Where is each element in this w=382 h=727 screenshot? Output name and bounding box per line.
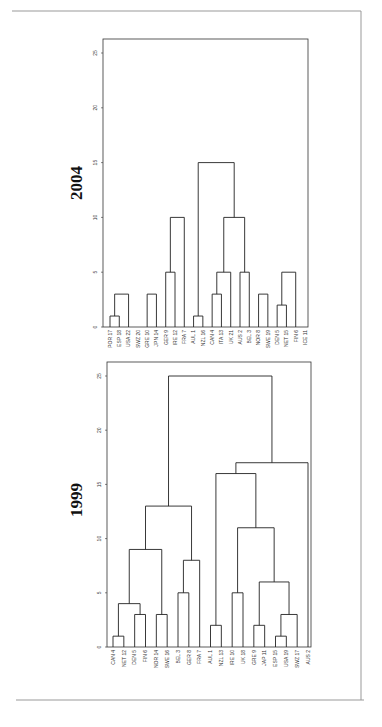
dendrogram-link — [259, 582, 289, 625]
leaf-label: BEL 3 — [246, 330, 252, 344]
dendrogram-link — [178, 593, 189, 647]
leaf-label: NZL 16 — [200, 330, 206, 346]
leaf-label: SWZ 20 — [135, 330, 141, 348]
dendrogram-link — [194, 316, 203, 327]
leaf-label: FRA 7 — [196, 650, 202, 664]
leaf-label: JPN 14 — [153, 330, 159, 347]
dendrogram-link — [217, 272, 231, 327]
leaf-label: ITA 13 — [218, 330, 224, 344]
leaf-label: CAN 4 — [209, 330, 215, 345]
leaf-label: AUS 2 — [305, 650, 311, 665]
leaf-label: USA 19 — [283, 650, 289, 667]
y-tick-label: 25 — [92, 50, 98, 56]
leaf-label: GRE 9 — [251, 650, 257, 665]
leaf-label: AUS 2 — [237, 330, 243, 345]
leaf-label: USA 22 — [125, 330, 131, 347]
leaf-label: CAN 4 — [110, 650, 116, 665]
leaf-label: UK 21 — [228, 330, 234, 344]
dendrogram-link — [169, 376, 272, 506]
leaf-label: GRE 10 — [144, 330, 150, 348]
leaf-label: FIN 6 — [293, 330, 299, 342]
dendrogram-link — [166, 272, 175, 327]
panel-title: 1999 — [67, 483, 86, 517]
leaf-label: FRA 7 — [181, 330, 187, 344]
leaf-label: ICE 11 — [302, 330, 308, 345]
leaf-label: FIN 6 — [142, 650, 148, 662]
dendrogram-link — [183, 560, 199, 647]
dendrogram-link — [212, 294, 221, 327]
leaf-label: DEN 5 — [131, 650, 137, 665]
leaf-label: DEN 5 — [274, 330, 280, 345]
y-tick-label: 15 — [96, 481, 102, 487]
y-tick-label: 20 — [96, 427, 102, 433]
dendrogram-link — [259, 294, 268, 327]
leaf-label: SWE 19 — [265, 330, 271, 349]
dendrogram-link — [147, 294, 156, 327]
y-tick-label: 0 — [96, 645, 102, 648]
dendrogram-link — [198, 163, 234, 316]
dendrogram-link — [113, 636, 124, 647]
leaf-label: NOR 8 — [255, 330, 261, 346]
dendrogram-link — [281, 614, 297, 647]
dendrogram-link — [254, 625, 265, 647]
leaf-label: POR 17 — [107, 330, 113, 348]
dendrogram-link — [115, 294, 129, 327]
leaf-label: IRE 10 — [229, 650, 235, 666]
dendrogram-1999: 05101520251999CAN 4NET 12DEN 5FIN 6NOR 1… — [67, 362, 311, 668]
dendrogram-link — [232, 593, 243, 647]
dendrogram-link — [129, 549, 162, 614]
y-tick-label: 20 — [92, 105, 98, 111]
dendrogram-link — [146, 506, 192, 560]
leaf-label: NOR 14 — [153, 650, 159, 668]
leaf-label: SWE 16 — [164, 650, 170, 669]
leaf-label: AUL 1 — [207, 650, 213, 664]
leaf-label: IRE 12 — [172, 330, 178, 346]
leaf-label: UK 18 — [240, 650, 246, 664]
dendrogram-link — [240, 272, 249, 327]
dendrogram-2004: 05101520252004POR 17ESP 18USA 22SWZ 20GR… — [67, 39, 308, 348]
leaf-label: GER 9 — [163, 330, 169, 345]
leaf-label: AUL 1 — [190, 330, 196, 344]
leaf-label: NET 12 — [121, 650, 127, 667]
panel-title: 2004 — [67, 166, 86, 201]
leaf-label: NET 15 — [283, 330, 289, 347]
dendrogram-link — [282, 272, 296, 327]
leaf-label: JAP 11 — [261, 650, 267, 666]
dendrogram-link — [277, 305, 286, 327]
y-tick-label: 10 — [96, 536, 102, 542]
dendrogram-link — [238, 528, 275, 593]
leaf-label: NZL 13 — [218, 650, 224, 666]
y-tick-label: 5 — [96, 591, 102, 594]
dendrogram-link — [135, 614, 146, 647]
leaf-label: ESP 15 — [272, 650, 278, 667]
dendrogram-link — [110, 316, 119, 327]
dendrogram-link — [211, 625, 222, 647]
y-tick-label: 0 — [92, 325, 98, 328]
dendrogram-link — [118, 604, 140, 637]
plot-frame — [103, 39, 308, 327]
dendrogram-link — [216, 474, 256, 626]
dendrogram-link — [156, 614, 167, 647]
leaf-label: SWZ 17 — [294, 650, 300, 668]
dendrogram-link — [224, 217, 245, 272]
leaf-label: ESP 18 — [116, 330, 122, 347]
plot-frame — [107, 362, 311, 647]
dendrogram-link — [276, 636, 287, 647]
leaf-label: BEL 3 — [175, 650, 181, 664]
y-tick-label: 25 — [96, 373, 102, 379]
y-tick-label: 15 — [92, 160, 98, 166]
y-tick-label: 5 — [92, 271, 98, 274]
figure-frame: 05101520252004POR 17ESP 18USA 22SWZ 20GR… — [0, 0, 382, 727]
y-tick-label: 10 — [92, 214, 98, 220]
leaf-label: GER 8 — [186, 650, 192, 665]
